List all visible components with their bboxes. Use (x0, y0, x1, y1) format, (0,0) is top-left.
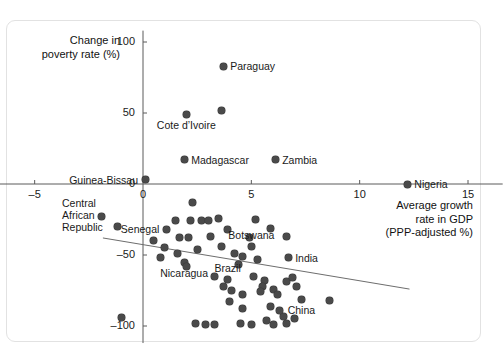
point-label: Zambia (282, 154, 317, 166)
trend-line (103, 238, 410, 289)
data-point-madagascar (181, 156, 188, 163)
data-point-china (298, 296, 305, 303)
y-axis-title-line: Change in (20, 34, 120, 48)
data-point (194, 246, 201, 253)
data-point (118, 314, 125, 321)
point-label-central-african-republic: Central (62, 197, 96, 209)
y-axis-tick-label: –100 (95, 319, 135, 331)
data-point-botswana (248, 243, 255, 250)
y-axis-title-line: poverty rate (%) (20, 48, 120, 62)
data-point (250, 273, 257, 280)
data-point (218, 243, 225, 250)
y-axis-title: Change inpoverty rate (%) (20, 34, 120, 61)
x-axis-title-line: Average growth (325, 199, 473, 213)
data-point-paraguay (220, 63, 227, 70)
data-point (237, 320, 244, 327)
data-point (239, 253, 246, 260)
data-point (183, 263, 190, 270)
data-point (231, 250, 238, 257)
data-point (218, 107, 225, 114)
screenshot-root: –5051015–100–50050100ParaguayCote d’Ivoi… (0, 0, 503, 356)
data-point-cote-d-ivoire (183, 111, 190, 118)
data-point (267, 225, 274, 232)
point-label: India (295, 252, 318, 264)
point-label: Madagascar (191, 154, 249, 166)
data-point (276, 307, 283, 314)
data-point (267, 303, 274, 310)
y-axis-tick-label: –50 (95, 248, 135, 260)
data-point (283, 320, 290, 327)
data-point (283, 233, 290, 240)
data-point (326, 297, 333, 304)
data-point (263, 317, 270, 324)
x-axis-title-line: (PPP-adjusted %) (325, 226, 473, 240)
data-point (280, 313, 287, 320)
data-point-brazil (224, 276, 231, 283)
x-axis-tick-label: 5 (235, 188, 267, 200)
data-point (205, 217, 212, 224)
point-label-central-african-republic: African (62, 209, 95, 221)
y-axis-tick-label: 50 (95, 106, 135, 118)
data-point (248, 321, 255, 328)
point-label: China (288, 304, 315, 316)
point-label: Brazil (215, 262, 241, 274)
x-axis-tick-label: 0 (127, 188, 159, 200)
x-axis-tick-label: –5 (19, 188, 51, 200)
x-axis-title: Average growthrate in GDP(PPP-adjusted %… (325, 199, 473, 240)
data-point-india (285, 254, 292, 261)
data-point (114, 223, 121, 230)
point-label-central-african-republic: Republic (62, 221, 103, 233)
data-point (207, 233, 214, 240)
data-point (192, 320, 199, 327)
data-point (270, 321, 277, 328)
point-label: Senegal (121, 223, 160, 235)
point-label: Guinea-Bissau (69, 174, 138, 186)
data-point (257, 288, 264, 295)
point-label: Cote d’Ivoire (157, 119, 216, 131)
data-point (215, 215, 222, 222)
data-point-nigeria (404, 181, 411, 188)
point-label: Nigeria (414, 178, 447, 190)
data-point-zambia (272, 156, 279, 163)
point-label: Paraguay (230, 60, 275, 72)
x-axis-title-line: rate in GDP (325, 213, 473, 227)
data-point (220, 283, 227, 290)
data-point-guinea-bissau (142, 176, 149, 183)
